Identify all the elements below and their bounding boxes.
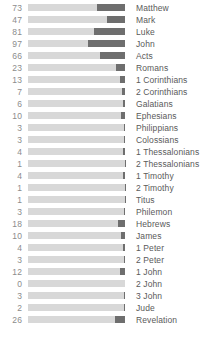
bar-fill bbox=[124, 136, 125, 143]
bar-category-label: 2 Thessalonians bbox=[136, 158, 199, 170]
chart-row: 3Colossians bbox=[0, 134, 205, 146]
bar-value-label: 26 bbox=[0, 314, 22, 326]
bar-value-label: 3 bbox=[0, 134, 22, 146]
bar-category-label: John bbox=[136, 38, 155, 50]
bar-fill bbox=[118, 220, 125, 227]
chart-row: 41 Peter bbox=[0, 242, 205, 254]
bar-fill bbox=[97, 4, 125, 11]
bar-value-label: 1 bbox=[0, 158, 22, 170]
bar-category-label: Philemon bbox=[136, 206, 172, 218]
bar-track bbox=[28, 280, 125, 287]
chart-row: 72 Corinthians bbox=[0, 86, 205, 98]
chart-row: 2Jude bbox=[0, 302, 205, 314]
chart-row: 47Mark bbox=[0, 14, 205, 26]
bar-category-label: James bbox=[136, 230, 162, 242]
bar-category-label: 2 Peter bbox=[136, 254, 164, 266]
bar-category-label: Jude bbox=[136, 302, 155, 314]
chart-row: 3Philippians bbox=[0, 122, 205, 134]
bar-value-label: 73 bbox=[0, 2, 22, 14]
bar-value-label: 3 bbox=[0, 206, 22, 218]
chart-row: 10James bbox=[0, 230, 205, 242]
bar-value-label: 1 bbox=[0, 182, 22, 194]
bar-track bbox=[28, 28, 125, 35]
bar-category-label: Acts bbox=[136, 50, 153, 62]
bar-track bbox=[28, 184, 125, 191]
bar-category-label: Revelation bbox=[136, 314, 177, 326]
chart-row: 1Titus bbox=[0, 194, 205, 206]
chart-row: 73Matthew bbox=[0, 2, 205, 14]
bar-value-label: 23 bbox=[0, 62, 22, 74]
bar-category-label: Hebrews bbox=[136, 218, 170, 230]
bar-category-label: Mark bbox=[136, 14, 155, 26]
bar-track bbox=[28, 112, 125, 119]
chart-row: 121 John bbox=[0, 266, 205, 278]
bar-value-label: 3 bbox=[0, 254, 22, 266]
bar-value-label: 97 bbox=[0, 38, 22, 50]
bar-track bbox=[28, 268, 125, 275]
bar-track bbox=[28, 244, 125, 251]
bar-track bbox=[28, 124, 125, 131]
bar-value-label: 10 bbox=[0, 110, 22, 122]
bar-category-label: Matthew bbox=[136, 2, 169, 14]
bar-category-label: 2 Corinthians bbox=[136, 86, 187, 98]
bar-track bbox=[28, 100, 125, 107]
bar-fill bbox=[121, 112, 125, 119]
bar-track bbox=[28, 148, 125, 155]
bar-track bbox=[28, 160, 125, 167]
bar-track bbox=[28, 208, 125, 215]
bar-track bbox=[28, 136, 125, 143]
bar-value-label: 47 bbox=[0, 14, 22, 26]
chart-row: 10Ephesians bbox=[0, 110, 205, 122]
bar-fill bbox=[124, 208, 125, 215]
chart-row: 81Luke bbox=[0, 26, 205, 38]
bar-fill bbox=[115, 316, 125, 323]
bar-track bbox=[28, 256, 125, 263]
bar-fill bbox=[123, 100, 125, 107]
bar-value-label: 13 bbox=[0, 74, 22, 86]
chart-row: 26Revelation bbox=[0, 314, 205, 326]
bar-value-label: 18 bbox=[0, 218, 22, 230]
horizontal-bar-chart: 73Matthew47Mark81Luke97John66Acts23Roman… bbox=[0, 0, 205, 341]
bar-track bbox=[28, 196, 125, 203]
bar-track bbox=[28, 292, 125, 299]
bar-value-label: 6 bbox=[0, 98, 22, 110]
bar-value-label: 12 bbox=[0, 266, 22, 278]
bar-value-label: 81 bbox=[0, 26, 22, 38]
bar-fill bbox=[121, 232, 125, 239]
bar-fill bbox=[124, 256, 125, 263]
bar-track bbox=[28, 232, 125, 239]
bar-fill bbox=[116, 64, 125, 71]
bar-value-label: 0 bbox=[0, 278, 22, 290]
bar-category-label: Philippians bbox=[136, 122, 178, 134]
bar-fill bbox=[124, 292, 125, 299]
bar-track bbox=[28, 16, 125, 23]
bar-track bbox=[28, 52, 125, 59]
bar-value-label: 4 bbox=[0, 170, 22, 182]
bar-fill bbox=[88, 40, 125, 47]
chart-row: 97John bbox=[0, 38, 205, 50]
bar-category-label: 1 Timothy bbox=[136, 170, 174, 182]
bar-category-label: Luke bbox=[136, 26, 155, 38]
bar-value-label: 4 bbox=[0, 242, 22, 254]
chart-row: 3Philemon bbox=[0, 206, 205, 218]
bar-fill bbox=[100, 52, 125, 59]
bar-value-label: 3 bbox=[0, 122, 22, 134]
bar-track bbox=[28, 4, 125, 11]
bar-fill bbox=[120, 76, 125, 83]
bar-fill bbox=[120, 268, 125, 275]
chart-row: 02 John bbox=[0, 278, 205, 290]
chart-row: 12 Timothy bbox=[0, 182, 205, 194]
chart-row: 41 Timothy bbox=[0, 170, 205, 182]
bar-fill bbox=[124, 304, 125, 311]
bar-value-label: 10 bbox=[0, 230, 22, 242]
bar-track bbox=[28, 172, 125, 179]
bar-category-label: 2 Timothy bbox=[136, 182, 174, 194]
bar-category-label: 1 Peter bbox=[136, 242, 164, 254]
chart-row: 6Galatians bbox=[0, 98, 205, 110]
bar-category-label: 1 John bbox=[136, 266, 162, 278]
bar-category-label: 2 John bbox=[136, 278, 162, 290]
bar-category-label: Romans bbox=[136, 62, 168, 74]
bar-track bbox=[28, 88, 125, 95]
bar-category-label: Ephesians bbox=[136, 110, 177, 122]
bar-value-label: 1 bbox=[0, 194, 22, 206]
